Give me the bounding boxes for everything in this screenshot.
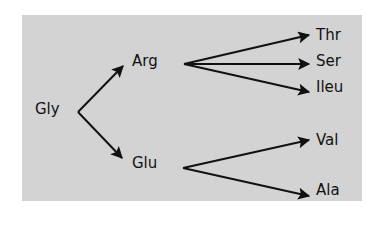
arrow-glu-ala [183,168,309,196]
arrow-gly-arg [78,66,123,112]
node-arg: Arg [132,54,158,69]
node-val: Val [316,133,338,148]
node-gly: Gly [35,102,60,117]
node-glu: Glu [132,156,157,171]
arrow-arg-thr [184,35,309,64]
node-ileu: Ileu [316,80,343,95]
node-thr: Thr [316,28,341,43]
arrow-arg-ileu [184,64,309,92]
arrow-gly-glu [78,112,122,158]
node-ala: Ala [316,183,340,198]
arrow-glu-val [183,140,309,168]
node-ser: Ser [316,54,341,69]
